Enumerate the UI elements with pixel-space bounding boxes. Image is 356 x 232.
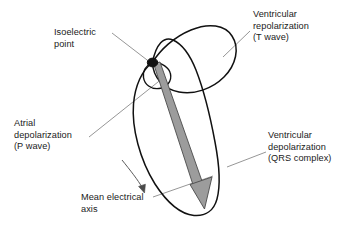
label-t-wave-line1: Ventricular [253, 9, 309, 21]
label-ventricular-repolarization: Ventricular repolarization (T wave) [253, 9, 309, 44]
label-p-wave-line1: Atrial [14, 118, 72, 130]
label-mean-axis-line1: Mean electrical [81, 192, 144, 204]
mean-axis-arrow-shaft [154, 62, 206, 194]
label-qrs-line1: Ventricular [268, 130, 331, 142]
rotation-arrow-shaft [122, 160, 143, 188]
label-t-wave-line3: (T wave) [253, 32, 309, 44]
label-isoelectric-line1: Isoelectric [54, 27, 96, 39]
label-t-wave-line2: repolarization [253, 21, 309, 33]
label-p-wave-line3: (P wave) [14, 141, 72, 153]
label-isoelectric-point: Isoelectric point [54, 27, 96, 50]
label-qrs-line3: (QRS complex) [268, 153, 331, 165]
label-ventricular-depolarization: Ventricular depolarization (QRS complex) [268, 130, 331, 165]
label-atrial-depolarization: Atrial depolarization (P wave) [14, 118, 72, 153]
label-p-wave-line2: depolarization [14, 130, 72, 142]
label-isoelectric-line2: point [54, 39, 96, 51]
label-mean-electrical-axis: Mean electrical axis [81, 192, 144, 215]
leader-line-p-wave [89, 78, 163, 137]
rotation-direction-arrow [122, 160, 145, 193]
label-mean-axis-line2: axis [81, 204, 144, 216]
label-qrs-line2: depolarization [268, 142, 331, 154]
vectorcardiogram-figure: Isoelectric point Ventricular repolariza… [0, 0, 356, 232]
leader-line-qrs [227, 152, 266, 167]
isoelectric-point-dot [147, 58, 157, 67]
leader-line-isoelectric [112, 33, 151, 63]
